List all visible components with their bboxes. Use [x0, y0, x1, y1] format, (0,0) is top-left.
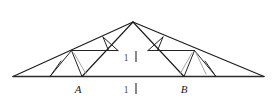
apex-struts [82, 22, 184, 77]
lower-measure-group: 1 [124, 83, 136, 95]
right-web-outer-short [205, 61, 216, 77]
lower-measure-value: 1 [124, 85, 129, 95]
left-web-outer-short [50, 61, 61, 77]
point-label-b: B [181, 83, 188, 95]
right-rafter-line [133, 22, 264, 77]
figure-container: 1 1 A B [0, 0, 276, 110]
left-rafter-line [13, 22, 133, 77]
right-construction-line-2 [196, 53, 206, 74]
upper-measure-value: 1 [124, 53, 129, 63]
left-truss-group [50, 37, 118, 77]
upper-measure-group: 1 [124, 51, 136, 63]
outer-triangle [13, 22, 264, 77]
geometric-diagram: 1 1 A B [0, 0, 276, 110]
point-label-a: A [74, 83, 82, 95]
